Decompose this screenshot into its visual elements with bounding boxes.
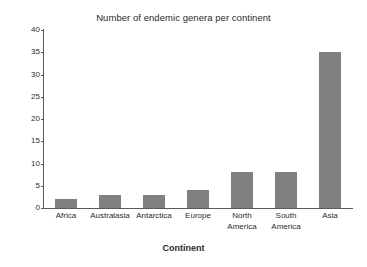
x-axis-spine <box>43 208 353 209</box>
y-tick-label: 40 <box>0 25 40 35</box>
y-tick-mark <box>41 208 44 209</box>
y-tick-label: 5 <box>0 181 40 191</box>
bar-column[interactable] <box>99 30 122 208</box>
bar-column[interactable] <box>143 30 166 208</box>
bar[interactable] <box>55 199 78 208</box>
y-tick-label: 20 <box>0 114 40 124</box>
bar[interactable] <box>231 172 254 208</box>
x-tick-label: Antarctica <box>132 211 176 222</box>
bar[interactable] <box>99 195 122 208</box>
bar-chart-figure: Number of endemic genera per continent N… <box>0 0 367 267</box>
x-tick-label-line: America <box>220 222 264 233</box>
bar-column[interactable] <box>319 30 342 208</box>
plot-area <box>44 30 352 208</box>
bar-column[interactable] <box>187 30 210 208</box>
y-tick-label: 10 <box>0 159 40 169</box>
x-tick-label: Australasia <box>88 211 132 222</box>
y-tick-label: 0 <box>0 203 40 213</box>
x-tick-label: NorthAmerica <box>220 211 264 232</box>
x-tick-label: Asia <box>308 211 352 222</box>
x-tick-label-line: North <box>220 211 264 222</box>
bar[interactable] <box>143 195 166 208</box>
bar-column[interactable] <box>231 30 254 208</box>
x-tick-label-line: Asia <box>308 211 352 222</box>
y-tick-label: 25 <box>0 92 40 102</box>
x-tick-label-line: Australasia <box>88 211 132 222</box>
x-tick-label-line: Antarctica <box>132 211 176 222</box>
y-tick-label: 30 <box>0 70 40 80</box>
bar[interactable] <box>319 52 342 208</box>
x-tick-label-line: Europe <box>176 211 220 222</box>
y-tick-label: 15 <box>0 136 40 146</box>
x-tick-label: Africa <box>44 211 88 222</box>
bar[interactable] <box>187 190 210 208</box>
x-tick-label-line: South <box>264 211 308 222</box>
x-tick-label: SouthAmerica <box>264 211 308 232</box>
bar-column[interactable] <box>275 30 298 208</box>
bar[interactable] <box>275 172 298 208</box>
x-tick-label-line: America <box>264 222 308 233</box>
x-axis-label: Continent <box>0 243 367 253</box>
chart-title: Number of endemic genera per continent <box>0 12 367 23</box>
bar-column[interactable] <box>55 30 78 208</box>
x-tick-label: Europe <box>176 211 220 222</box>
x-tick-label-line: Africa <box>44 211 88 222</box>
y-tick-label: 35 <box>0 47 40 57</box>
